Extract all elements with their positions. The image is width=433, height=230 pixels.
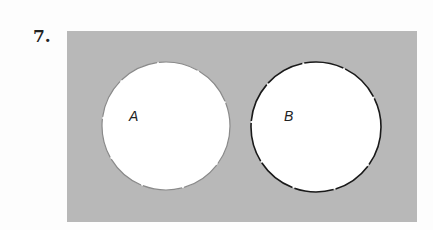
- set-b-circle: B: [251, 62, 381, 192]
- set-b-label: B: [284, 108, 293, 124]
- set-a-label: A: [128, 108, 138, 124]
- set-a-circle: A: [102, 62, 230, 190]
- venn-diagram: A B: [0, 0, 433, 230]
